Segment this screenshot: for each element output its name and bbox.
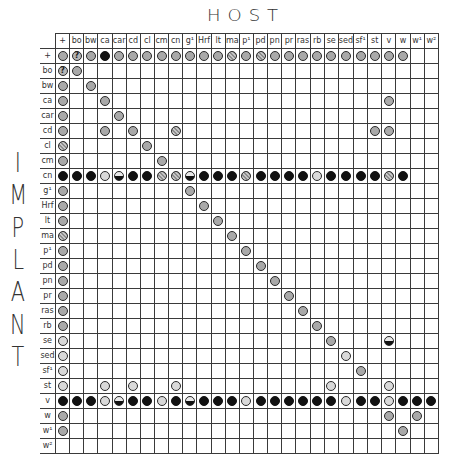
grid-cell [353,94,367,109]
row-header: lt [40,214,56,229]
row-header: rb [40,319,56,334]
grid-cell [338,124,353,139]
grid-cell [368,109,382,124]
grid-cell [56,109,70,124]
grid-cell [98,274,112,289]
grid-cell: ? [70,49,84,64]
grid-cell [368,139,382,154]
grid-cell [368,64,382,79]
grid-cell [368,394,382,409]
grid-cell [396,199,410,214]
grid-corner [40,34,56,49]
grid-cell [424,169,438,184]
grid-cell [410,334,424,349]
grid-cell [98,184,112,199]
grid-cell [70,409,84,424]
grid-cell [296,364,310,379]
result-circle-icon [58,171,68,181]
result-circle-icon [58,231,68,241]
grid-cell [140,94,154,109]
grid-cell [140,394,154,409]
grid-cell [368,439,382,454]
grid-cell [282,304,296,319]
result-circle-icon [100,51,110,61]
grid-cell [154,139,168,154]
grid-cell [225,229,239,244]
grid-cell [253,439,267,454]
grid-cell [338,109,353,124]
grid-cell [211,169,225,184]
grid-cell [324,274,338,289]
result-circle-icon [142,171,152,181]
grid-cell [310,334,324,349]
grid-cell [154,439,168,454]
column-header: bo [70,34,84,49]
grid-cell [84,169,98,184]
result-circle-icon [384,336,394,346]
grid-cell [338,364,353,379]
grid-cell [169,349,183,364]
grid-cell [253,319,267,334]
grid-cell [324,229,338,244]
result-circle-icon [398,396,408,406]
grid-cell [211,139,225,154]
result-circle-icon [58,291,68,301]
grid-cell [424,109,438,124]
host-axis-title: HOST [196,8,296,25]
grid-cell [282,64,296,79]
row-header: pn [40,274,56,289]
result-circle-icon [128,126,138,136]
grid-cell [310,94,324,109]
result-circle-icon [426,396,436,406]
grid-cell [197,439,211,454]
grid-cell [84,364,98,379]
grid-cell [296,94,310,109]
grid-cell [169,364,183,379]
grid-cell [197,304,211,319]
grid-cell [84,349,98,364]
grid-cell [310,49,324,64]
grid-cell [169,184,183,199]
grid-cell [154,229,168,244]
grid-cell [253,259,267,274]
implant-letter: I [15,150,21,176]
grid-cell [70,154,84,169]
grid-cell [324,184,338,199]
grid-cell [410,94,424,109]
grid-cell [410,319,424,334]
result-circle-icon [356,51,366,61]
grid-cell [296,139,310,154]
grid-cell [126,244,140,259]
row-header: pr [40,289,56,304]
result-circle-icon [370,396,380,406]
grid-cell [310,289,324,304]
grid-cell [382,289,396,304]
grid-cell [382,214,396,229]
grid-row: sf¹ [40,364,438,379]
grid-cell [169,259,183,274]
grid-cell [183,124,197,139]
grid-cell [211,49,225,64]
grid-cell [126,319,140,334]
grid-cell [112,319,126,334]
grid-row: +? [40,49,438,64]
result-circle-icon [312,51,322,61]
grid-cell [268,289,282,304]
result-circle-icon [298,51,308,61]
row-header: bo [40,64,56,79]
grid-cell [338,274,353,289]
grid-cell [98,49,112,64]
grid-cell [310,439,324,454]
grid-cell [268,79,282,94]
grid-cell [154,64,168,79]
grid-cell [154,169,168,184]
grid-cell [282,439,296,454]
grid-cell [98,199,112,214]
result-circle-icon [114,111,124,121]
grid-cell [310,349,324,364]
grid-cell [169,139,183,154]
grid-cell [70,79,84,94]
grid-cell [112,109,126,124]
grid-cell [154,49,168,64]
row-header: sf¹ [40,364,56,379]
